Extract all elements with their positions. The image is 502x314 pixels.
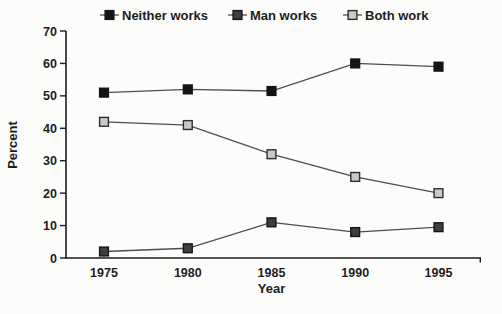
series-man-works-marker xyxy=(351,228,360,237)
series-neither-works-marker xyxy=(100,88,109,97)
y-tick-label: 40 xyxy=(43,122,57,136)
x-tick-label: 1995 xyxy=(425,266,453,280)
legend-item-both-work: Both work xyxy=(343,8,429,23)
series-both-work-marker xyxy=(183,121,192,130)
series-both-work-marker xyxy=(351,173,360,182)
y-tick-label: 10 xyxy=(43,219,57,233)
legend-label-man-works: Man works xyxy=(250,8,317,23)
series-neither-works-marker xyxy=(267,87,276,96)
x-tick-label: 1975 xyxy=(90,266,118,280)
series-neither-works-marker xyxy=(351,59,360,68)
legend-item-man-works: Man works xyxy=(228,8,317,23)
series-man-works-marker xyxy=(100,247,109,256)
y-tick-label: 20 xyxy=(43,187,57,201)
x-tick-label: 1990 xyxy=(341,266,369,280)
legend-label-both-work: Both work xyxy=(365,8,429,23)
series-both-work-marker xyxy=(100,117,109,126)
series-neither-works-marker xyxy=(183,85,192,94)
x-tick-label: 1985 xyxy=(258,266,286,280)
series-both-work-marker xyxy=(267,150,276,159)
y-tick-label: 30 xyxy=(43,154,57,168)
plot-area: 01020304050607019751980198519901995YearP… xyxy=(0,0,502,314)
series-man-works-marker xyxy=(267,218,276,227)
series-both-work-marker xyxy=(434,189,443,198)
y-tick-label: 60 xyxy=(43,57,57,71)
legend-marker-man-works xyxy=(233,11,242,20)
legend-label-neither-works: Neither works xyxy=(122,8,208,23)
legend-item-neither-works: Neither works xyxy=(100,8,208,23)
y-tick-label: 70 xyxy=(43,25,57,39)
series-man-works-marker xyxy=(434,223,443,232)
series-man-works-marker xyxy=(183,244,192,253)
y-axis-label: Percent xyxy=(5,120,20,168)
legend-marker-neither-works xyxy=(105,11,114,20)
x-tick-label: 1980 xyxy=(174,266,202,280)
legend-marker-both-work xyxy=(348,11,357,20)
y-tick-label: 0 xyxy=(50,252,57,266)
x-axis-label: Year xyxy=(258,281,285,296)
y-tick-label: 50 xyxy=(43,89,57,103)
employment-line-chart-figure: 01020304050607019751980198519901995YearP… xyxy=(0,0,502,314)
series-neither-works-marker xyxy=(434,62,443,71)
